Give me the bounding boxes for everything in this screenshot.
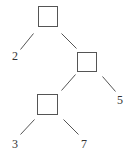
leaf-label-3: 3 [12, 137, 18, 151]
tree-internal-nodes [38, 7, 97, 115]
tree-edge-n1-to-n2 [62, 75, 76, 91]
tree-edge-root-to-n1 [62, 34, 77, 49]
leaf-label-7: 7 [81, 137, 87, 151]
tree-edge-n2-to-leaf-7 [64, 120, 79, 135]
tree-edges [21, 34, 116, 135]
tree-leaf-labels: 2537 [12, 49, 123, 151]
tree-edge-root-to-leaf-2 [21, 34, 34, 50]
internal-node-box-n1 [78, 53, 97, 72]
binary-tree-diagram: 2537 [0, 0, 129, 162]
leaf-label-2: 2 [12, 49, 18, 63]
internal-node-box-n2 [38, 95, 58, 115]
tree-edge-n1-to-leaf-5 [103, 77, 116, 92]
internal-node-box-root [39, 7, 58, 27]
tree-edge-n2-to-leaf-3 [21, 120, 35, 135]
leaf-label-5: 5 [117, 93, 123, 107]
